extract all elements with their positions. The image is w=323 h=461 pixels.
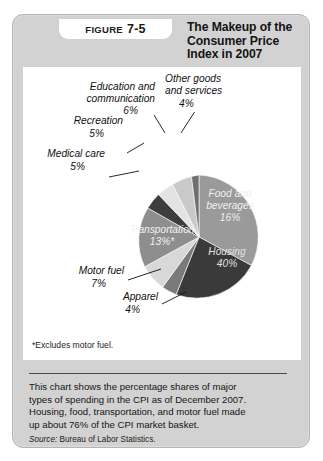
leader-line-recreation [127, 143, 144, 153]
label-medical-care: Medical care [47, 148, 105, 159]
label-apparel: Apparel [122, 291, 159, 302]
caption-line-1: This chart shows the percentage shares o… [29, 381, 287, 394]
label-recreation-percent: 5% [89, 128, 104, 139]
figure-caption: This chart shows the percentage shares o… [29, 373, 297, 445]
caption-line-3: Housing, food, transportation, and motor… [29, 406, 287, 419]
figure-header: FIGURE 7-5 The Makeup of the Consumer Pr… [13, 15, 309, 73]
leader-line-medical [109, 171, 139, 177]
label-recreation: Recreation [74, 115, 124, 126]
label-other-goods-line-2: and services [165, 85, 222, 96]
caption-body: This chart shows the percentage shares o… [29, 381, 287, 431]
label-education-line-1: Education and [90, 81, 155, 92]
chart-footnote: *Excludes motor fuel. [32, 340, 113, 350]
caption-line-2: types of spending in the CPI as of Decem… [29, 394, 287, 407]
leader-line-other-goods [181, 112, 195, 133]
figure-page: FIGURE 7-5 The Makeup of the Consumer Pr… [0, 0, 323, 461]
caption-source-label: Source: [29, 435, 57, 444]
leader-line-education [154, 115, 165, 133]
label-motor-fuel: Motor fuel [79, 265, 125, 276]
label-education-line-2: communication [86, 93, 155, 104]
figure-title-line-1: The Makeup of the [187, 21, 307, 35]
caption-source-text: Bureau of Labor Statistics. [60, 435, 156, 444]
label-other-goods-line-1: Other goods [165, 73, 221, 84]
label-education-percent: 6% [123, 105, 138, 116]
label-apparel-percent: 4% [125, 304, 140, 315]
chart-panel: Education and communication 6% Other goo… [23, 67, 301, 360]
label-medical-care-percent: 5% [70, 161, 85, 172]
figure-title: The Makeup of the Consumer Price Index i… [187, 21, 307, 62]
label-transportation: Transportation [130, 224, 195, 235]
label-transportation-percent: 13%* [150, 236, 175, 247]
label-food-line-1: Food and [208, 188, 251, 199]
figure-badge-label: FIGURE [85, 24, 123, 35]
caption-source: Source: Bureau of Labor Statistics. [29, 434, 297, 445]
caption-divider [29, 373, 287, 374]
figure-number-badge: FIGURE 7-5 [59, 19, 172, 39]
label-food-line-2: beverages [206, 200, 254, 211]
figure-card: FIGURE 7-5 The Makeup of the Consumer Pr… [12, 14, 310, 448]
label-motor-fuel-percent: 7% [91, 278, 106, 289]
pie-chart: Education and communication 6% Other goo… [23, 67, 301, 360]
figure-title-line-3: Index in 2007 [187, 48, 307, 62]
figure-title-line-2: Consumer Price [187, 35, 307, 49]
label-other-goods-percent: 4% [179, 98, 194, 109]
figure-badge-number: 7-5 [127, 22, 146, 36]
label-housing-percent: 40% [217, 258, 237, 269]
caption-line-4: up about 76% of the CPI market basket. [29, 419, 287, 432]
label-food-percent: 16% [220, 212, 240, 223]
label-housing: Housing [208, 246, 246, 257]
